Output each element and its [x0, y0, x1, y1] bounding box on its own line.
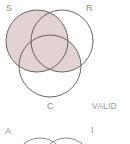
circle-label-s: S — [6, 4, 12, 13]
cropped-label-a: A — [5, 127, 11, 136]
venn-diagram-graphic — [0, 0, 130, 144]
validity-label: VALID — [92, 102, 117, 111]
circle-label-r: R — [86, 4, 93, 13]
cropped-diagram-circles — [15, 138, 91, 144]
cropped-label-i: I — [91, 126, 94, 135]
circle-label-c: C — [47, 102, 54, 111]
figure-canvas: S R C VALID A I — [0, 0, 130, 144]
